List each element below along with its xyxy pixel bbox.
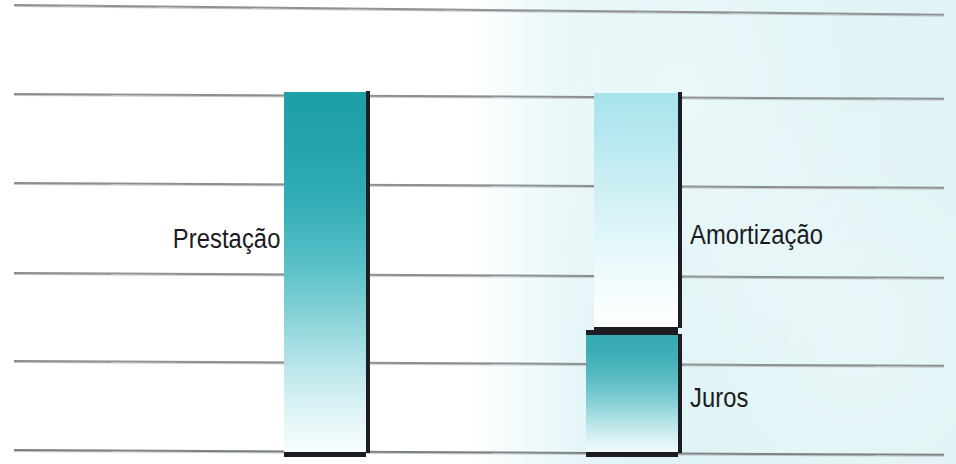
bar-juros[interactable] — [586, 335, 678, 452]
bar-juros-right-edge — [678, 334, 682, 453]
bar-amortizacao-right-edge — [678, 92, 682, 328]
bar-label-prestacao: Prestação — [172, 226, 280, 253]
bar-prestacao-bottom-cap — [284, 452, 366, 457]
bar-amortizacao[interactable] — [594, 93, 678, 327]
bar-label-juros: Juros — [690, 385, 749, 412]
bar-prestacao-right-edge — [366, 91, 370, 453]
bar-prestacao[interactable] — [284, 92, 366, 452]
bar-juros-top-cap — [586, 330, 678, 335]
chart-figure: Prestação Amortização Juros — [0, 0, 956, 464]
bar-juros-fill — [586, 335, 678, 452]
bar-juros-bottom-cap — [586, 452, 678, 457]
bar-amortizacao-fill — [594, 93, 678, 327]
bar-label-amortizacao: Amortização — [690, 222, 823, 249]
bar-prestacao-fill — [284, 92, 366, 452]
